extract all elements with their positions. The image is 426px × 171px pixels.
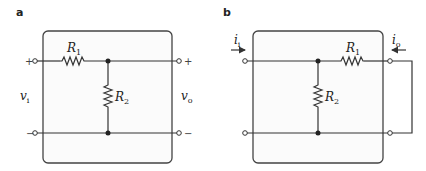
terminal-output-top bbox=[388, 59, 393, 64]
panel-b-label: b bbox=[223, 6, 231, 19]
terminal-input-top bbox=[243, 59, 248, 64]
terminal-input-bottom bbox=[243, 131, 248, 136]
panel-a: a + − + − R1 R2 vi bbox=[16, 6, 193, 163]
panel-b: b ii io R1 bbox=[223, 6, 412, 163]
sign-output-plus: + bbox=[184, 56, 192, 67]
sign-output-minus: − bbox=[184, 128, 192, 139]
output-current-label: io bbox=[392, 33, 401, 49]
circuit-diagram: a + − + − R1 R2 vi bbox=[0, 0, 426, 171]
panel-a-label: a bbox=[16, 6, 23, 19]
output-short-wire bbox=[392, 61, 412, 133]
junction-node bbox=[316, 59, 321, 64]
sign-input-plus: + bbox=[25, 56, 33, 67]
output-voltage-label: vo bbox=[181, 89, 193, 105]
input-voltage-label: vi bbox=[20, 89, 30, 105]
junction-node bbox=[106, 131, 111, 136]
two-port-box bbox=[43, 31, 172, 163]
junction-node bbox=[316, 131, 321, 136]
terminal-output-minus bbox=[177, 131, 182, 136]
terminal-output-plus bbox=[177, 59, 182, 64]
sign-input-minus: − bbox=[26, 128, 34, 139]
junction-node bbox=[106, 59, 111, 64]
terminal-output-bottom bbox=[388, 131, 393, 136]
input-current-label: ii bbox=[234, 33, 241, 49]
